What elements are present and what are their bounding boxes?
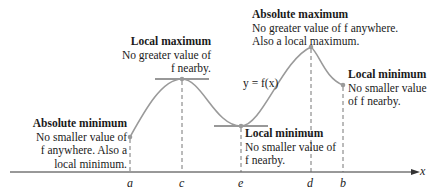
- annotation-title: Absolute minimum: [33, 117, 127, 131]
- annotation-absolute-maximum: Absolute maximum No greater value of f a…: [252, 8, 398, 49]
- point-local-min-b: [341, 83, 346, 88]
- annotation-local-minimum-e: Local minimum No smaller value of f near…: [245, 127, 336, 168]
- point-local-min-e: [239, 124, 244, 129]
- point-abs-min: [128, 135, 133, 140]
- tick-a: a: [127, 176, 133, 191]
- x-axis-arrow-icon: [411, 169, 420, 175]
- point-local-max: [180, 77, 185, 82]
- tick-c: c: [179, 176, 184, 191]
- axis-label-x: x: [420, 164, 425, 179]
- annotation-absolute-minimum: Absolute minimum No smaller value of f a…: [33, 117, 127, 171]
- annotation-title: Absolute maximum: [252, 8, 398, 22]
- annotation-local-maximum: Local maximum No greater value of f near…: [122, 35, 211, 76]
- tick-d: d: [307, 176, 313, 191]
- annotation-title: Local maximum: [122, 35, 211, 49]
- function-label: y = f(x): [243, 77, 278, 89]
- tick-e: e: [238, 176, 243, 191]
- annotation-local-minimum-b: Local minimum No smaller value of f near…: [348, 68, 427, 109]
- annotation-title: Local minimum: [245, 127, 336, 141]
- tick-b: b: [340, 176, 346, 191]
- annotation-title: Local minimum: [348, 68, 427, 82]
